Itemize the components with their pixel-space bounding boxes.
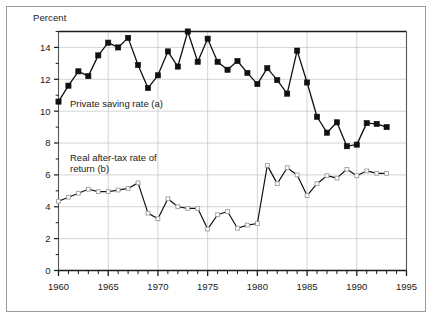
- data-point-marker: [126, 187, 130, 191]
- data-point-marker: [246, 223, 250, 227]
- x-tick-label: 1975: [197, 281, 218, 292]
- series-label-real-after-tax-return: Real after-tax rate of return (b): [70, 152, 157, 174]
- data-point-marker: [325, 174, 329, 178]
- series-private-saving-rate: [56, 29, 389, 149]
- data-point-marker: [126, 35, 131, 40]
- data-point-marker: [384, 125, 389, 130]
- data-point-marker: [305, 194, 309, 198]
- data-point-marker: [135, 62, 140, 67]
- data-point-marker: [106, 40, 111, 45]
- x-tick-label: 1965: [98, 281, 119, 292]
- series-label-line-1: Real after-tax rate of: [70, 152, 157, 163]
- x-tick-label: 1995: [396, 281, 417, 292]
- y-tick-label: 0: [45, 265, 50, 276]
- chart-plot: 0246810121419601965197019751980198519901…: [0, 0, 432, 318]
- data-point-marker: [236, 226, 240, 230]
- data-point-marker: [156, 217, 160, 221]
- data-point-marker: [215, 59, 220, 64]
- data-point-marker: [385, 171, 389, 175]
- data-point-marker: [57, 199, 61, 203]
- chart-figure: Percent 02468101214196019651970197519801…: [0, 0, 432, 318]
- data-point-marker: [196, 206, 200, 210]
- x-tick-label: 1960: [48, 281, 69, 292]
- data-point-marker: [265, 66, 270, 71]
- data-point-marker: [255, 81, 260, 86]
- x-tick-label: 1980: [247, 281, 268, 292]
- data-point-marker: [165, 49, 170, 54]
- y-axis-ticks: 02468101214: [40, 32, 59, 276]
- data-point-marker: [206, 227, 210, 231]
- data-point-marker: [265, 163, 269, 167]
- data-point-marker: [56, 99, 61, 104]
- x-tick-label: 1990: [346, 281, 367, 292]
- data-point-marker: [285, 166, 289, 170]
- data-point-marker: [155, 73, 160, 78]
- data-point-marker: [175, 64, 180, 69]
- gridlines: [59, 32, 407, 271]
- y-tick-label: 8: [45, 137, 50, 148]
- data-point-marker: [145, 85, 150, 90]
- y-tick-label: 14: [40, 42, 51, 53]
- data-point-marker: [344, 144, 349, 149]
- data-point-marker: [324, 130, 329, 135]
- data-point-marker: [345, 167, 349, 171]
- data-point-marker: [285, 91, 290, 96]
- data-point-marker: [186, 206, 190, 210]
- data-point-marker: [295, 48, 300, 53]
- data-point-marker: [205, 36, 210, 41]
- data-point-marker: [335, 176, 339, 180]
- data-point-marker: [176, 205, 180, 209]
- data-point-marker: [334, 120, 339, 125]
- y-tick-label: 12: [40, 74, 51, 85]
- data-point-marker: [76, 191, 80, 195]
- data-point-marker: [146, 211, 150, 215]
- data-point-marker: [96, 190, 100, 194]
- data-point-marker: [225, 67, 230, 72]
- y-tick-label: 4: [45, 201, 50, 212]
- data-point-marker: [67, 195, 71, 199]
- data-point-marker: [314, 114, 319, 119]
- data-point-marker: [86, 74, 91, 79]
- series-label-line-2: return (b): [70, 163, 157, 174]
- data-point-marker: [295, 173, 299, 177]
- data-point-marker: [76, 69, 81, 74]
- x-axis-ticks: 19601965197019751980198519901995: [48, 271, 417, 292]
- data-point-marker: [275, 77, 280, 82]
- data-point-marker: [235, 58, 240, 63]
- data-point-marker: [354, 142, 359, 147]
- data-point-marker: [106, 190, 110, 194]
- x-tick-label: 1985: [297, 281, 318, 292]
- data-point-marker: [355, 174, 359, 178]
- data-point-marker: [136, 181, 140, 185]
- x-tick-label: 1970: [147, 281, 168, 292]
- data-point-marker: [255, 222, 259, 226]
- data-point-marker: [374, 121, 379, 126]
- data-point-marker: [116, 188, 120, 192]
- data-point-marker: [364, 121, 369, 126]
- data-point-marker: [304, 80, 309, 85]
- data-point-marker: [365, 169, 369, 173]
- data-point-marker: [86, 187, 90, 191]
- data-point-marker: [245, 70, 250, 75]
- data-point-marker: [315, 182, 319, 186]
- data-point-marker: [66, 83, 71, 88]
- data-point-marker: [166, 197, 170, 201]
- series-label-private-saving-rate: Private saving rate (a): [70, 98, 163, 109]
- y-tick-label: 2: [45, 233, 50, 244]
- data-point-marker: [375, 171, 379, 175]
- data-point-marker: [116, 45, 121, 50]
- data-point-marker: [216, 213, 220, 217]
- data-point-marker: [185, 29, 190, 34]
- data-point-marker: [226, 210, 230, 214]
- y-tick-label: 6: [45, 169, 50, 180]
- data-point-marker: [275, 182, 279, 186]
- plot-frame: [59, 32, 407, 271]
- y-tick-label: 10: [40, 106, 51, 117]
- data-point-marker: [96, 53, 101, 58]
- data-point-marker: [195, 59, 200, 64]
